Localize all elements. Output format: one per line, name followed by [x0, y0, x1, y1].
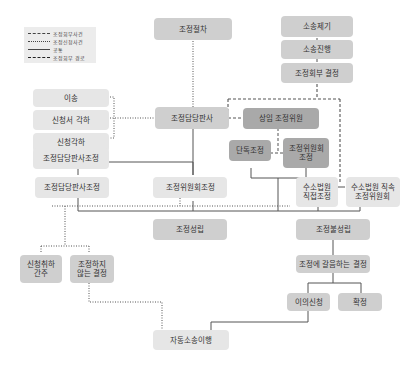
node-court-committee: 수소법원 직속 조정위원회	[346, 177, 400, 207]
node-lawsuit-progress: 소송진행	[281, 40, 353, 59]
node-mediation-procedure: 조정절차	[154, 18, 232, 40]
node-committee-mediation: 조정위원회조정	[153, 177, 227, 198]
node-auto-litigation: 자동소송이행	[153, 330, 229, 350]
node-application-rejected: 신청서 각하	[33, 110, 109, 130]
node-standing-mediator: 상임 조정위원	[243, 108, 319, 129]
node-mediation-failure: 조정불성립	[296, 219, 370, 240]
node-judge-mediation: 조정담당판사조정	[35, 177, 109, 198]
node-lawsuit-filed: 소송제기	[281, 16, 353, 37]
node-objection: 이의신청	[287, 293, 330, 311]
node-substitute-decision: 조정에 갈음하는 결정	[296, 255, 370, 273]
node-mediation-judge: 조정담당판사	[155, 107, 229, 129]
node-no-mediation-decision: 조정하지 않는 결정	[70, 255, 114, 283]
node-mediation-success: 조정성립	[153, 219, 227, 240]
node-finalized: 확정	[338, 293, 382, 311]
node-transfer: 이송	[33, 89, 109, 107]
node-withdrawal-deemed: 신청취하 간주	[20, 255, 62, 283]
node-committee-mediation-box: 조정위원회 조정	[283, 138, 329, 168]
node-court-direct-mediation: 수소법원 직접조정	[296, 177, 338, 207]
node-solo-mediation: 단독조정	[229, 140, 271, 161]
node-judge-mediation: 조정담당판사조정	[33, 148, 109, 169]
node-referral-decision: 조정회부 결정	[281, 63, 353, 83]
